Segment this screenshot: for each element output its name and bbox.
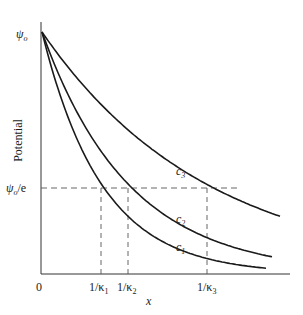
kappa1-tick-label: 1/κ1 bbox=[89, 281, 108, 298]
c3-subscript: 3 bbox=[181, 171, 185, 180]
kappa3-tick-label: 1/κ3 bbox=[197, 281, 216, 298]
origin-label: 0 bbox=[36, 281, 42, 293]
kappa1-text: 1/κ bbox=[89, 280, 104, 294]
c1-subscript: 1 bbox=[181, 247, 185, 256]
psi0e-tail: /e bbox=[17, 181, 26, 195]
curve-label-c1: c1 bbox=[176, 241, 185, 258]
c2-subscript: 2 bbox=[181, 219, 185, 228]
curve-c2 bbox=[42, 32, 272, 257]
psi0e-tick-label: ψo/e bbox=[6, 182, 26, 199]
kappa2-subscript: 2 bbox=[132, 287, 136, 296]
kappa1-subscript: 1 bbox=[104, 287, 108, 296]
chart-plot-area bbox=[0, 0, 303, 315]
x-axis-label: x bbox=[146, 295, 151, 307]
psi0-subscript: o bbox=[23, 34, 27, 43]
curve-label-c3: c3 bbox=[176, 165, 185, 182]
kappa2-tick-label: 1/κ2 bbox=[117, 281, 136, 298]
curve-label-c2: c2 bbox=[176, 213, 185, 230]
kappa3-text: 1/κ bbox=[197, 280, 212, 294]
kappa2-text: 1/κ bbox=[117, 280, 132, 294]
psi0-tick-label: ψo bbox=[16, 28, 27, 45]
y-axis-label: Potential bbox=[11, 116, 26, 166]
kappa3-subscript: 3 bbox=[212, 287, 216, 296]
curve-c3 bbox=[42, 32, 280, 216]
